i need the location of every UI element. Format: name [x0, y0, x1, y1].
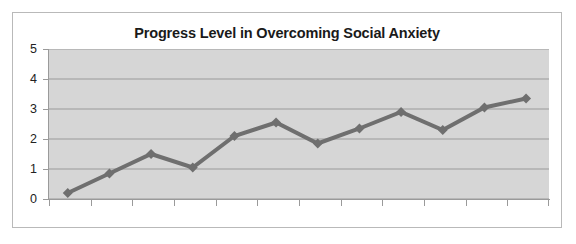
x-tick-mark [257, 200, 258, 206]
x-tick-mark [174, 200, 175, 206]
x-tick-mark [548, 200, 549, 206]
x-tick-mark [91, 200, 92, 206]
y-tick-mark [43, 109, 48, 110]
chart-frame: Progress Level in Overcoming Social Anxi… [12, 12, 562, 228]
chart-title: Progress Level in Overcoming Social Anxi… [13, 25, 561, 41]
gridlines [49, 49, 549, 199]
y-tick-mark [43, 169, 48, 170]
data-series-line [68, 99, 526, 194]
y-tick-label: 2 [7, 133, 43, 146]
x-tick-mark [507, 200, 508, 206]
x-tick-mark [424, 200, 425, 206]
plot-area [49, 49, 549, 199]
y-tick-mark [43, 79, 48, 80]
y-tick-label: 4 [7, 73, 43, 86]
line-chart-svg [49, 49, 549, 199]
x-tick-mark [49, 200, 50, 206]
y-tick-mark [43, 139, 48, 140]
x-tick-mark [216, 200, 217, 206]
x-tick-mark [382, 200, 383, 206]
data-point-marker [521, 94, 531, 104]
x-tick-mark [466, 200, 467, 206]
x-tick-mark [299, 200, 300, 206]
x-axis-ticks [49, 200, 549, 207]
x-tick-mark [341, 200, 342, 206]
x-tick-mark [132, 200, 133, 206]
y-tick-label: 3 [7, 103, 43, 116]
y-tick-label: 5 [7, 43, 43, 56]
y-axis-tick-labels: 012345 [13, 49, 43, 199]
y-tick-label: 1 [7, 163, 43, 176]
y-tick-mark [43, 199, 48, 200]
y-tick-mark [43, 49, 48, 50]
y-tick-label: 0 [7, 193, 43, 206]
